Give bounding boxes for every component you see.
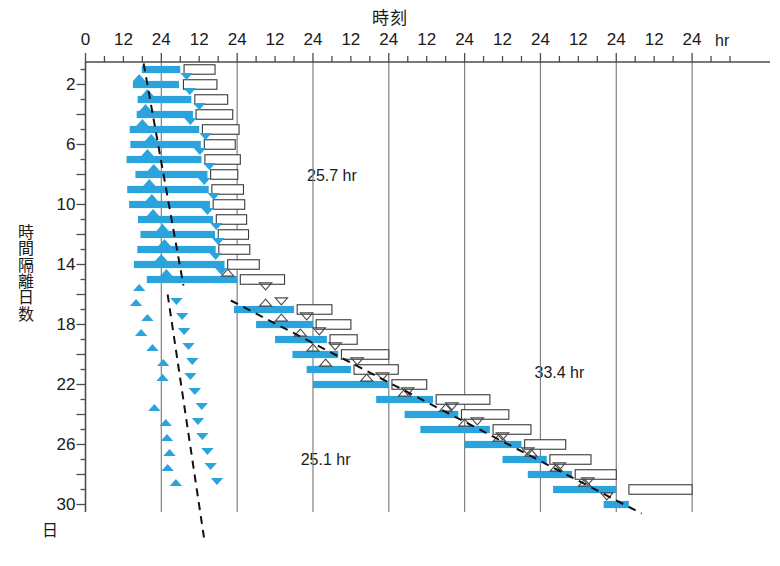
triangle-down-marker <box>209 253 221 260</box>
triangle-down-marker <box>186 358 198 365</box>
triangle-down-marker <box>212 238 224 245</box>
triangle-up-marker <box>319 359 331 366</box>
wake-period-rect <box>184 65 215 75</box>
triangle-up-marker <box>130 299 142 306</box>
sleep-period-bar <box>234 306 294 313</box>
triangle-up-marker <box>161 434 173 441</box>
triangle-up-marker <box>143 179 155 186</box>
sleep-period-bar <box>256 321 313 328</box>
triangle-up-marker <box>139 104 151 111</box>
triangle-down-marker <box>184 118 196 125</box>
actogram-figure: 時刻 012241224122412241224122412241224 hr … <box>0 0 780 566</box>
wake-period-rect <box>204 140 235 150</box>
wake-period-rect <box>212 185 244 195</box>
sleep-period-bar <box>133 81 179 88</box>
sleep-period-bar <box>138 216 213 223</box>
triangle-down-marker <box>180 73 192 80</box>
triangle-down-marker <box>184 373 196 380</box>
triangle-up-marker <box>133 284 145 291</box>
wake-period-rect <box>213 200 245 210</box>
wake-period-rect <box>461 410 508 420</box>
sleep-period-bar <box>503 456 547 463</box>
triangle-down-marker <box>203 163 215 170</box>
triangle-up-marker <box>148 164 160 171</box>
triangle-down-marker <box>194 148 206 155</box>
triangle-down-marker <box>201 448 213 455</box>
wake-period-rect <box>218 230 248 240</box>
triangle-down-marker <box>275 298 287 305</box>
triangle-up-marker <box>360 374 372 381</box>
triangle-up-marker <box>259 299 271 306</box>
triangle-up-marker <box>133 74 145 81</box>
sleep-period-bar <box>127 156 202 163</box>
sleep-period-bar <box>313 381 389 388</box>
triangle-up-marker <box>147 209 159 216</box>
triangle-up-marker <box>141 314 153 321</box>
wake-period-rect <box>629 485 692 495</box>
gridlines <box>161 62 692 512</box>
sleep-period-bar <box>405 411 459 418</box>
wake-period-rect <box>196 110 233 120</box>
sleep-period-bar <box>130 126 200 133</box>
sleep-period-bar <box>135 171 207 178</box>
sleep-period-bar <box>275 336 327 343</box>
triangle-down-marker <box>201 208 213 215</box>
wake-period-rect <box>341 350 388 360</box>
triangle-down-marker <box>193 103 205 110</box>
triangle-down-marker <box>182 343 194 350</box>
triangle-up-marker <box>136 119 148 126</box>
wake-period-rect <box>202 125 239 135</box>
sleep-period-bar <box>130 141 200 148</box>
plot-canvas <box>0 0 780 566</box>
sleep-period-bar <box>376 396 433 403</box>
triangle-down-marker <box>184 88 196 95</box>
triangle-down-marker <box>210 223 222 230</box>
triangle-down-marker <box>178 328 190 335</box>
triangle-up-marker <box>157 359 169 366</box>
triangle-up-marker <box>135 329 147 336</box>
sleep-period-bar <box>137 111 193 118</box>
triangle-down-marker <box>208 193 220 200</box>
sleep-period-bar <box>465 441 522 448</box>
triangle-down-marker <box>196 433 208 440</box>
triangle-up-marker <box>141 149 153 156</box>
triangle-up-marker <box>155 254 167 261</box>
triangle-up-marker <box>275 314 287 321</box>
wake-period-rect <box>216 215 246 225</box>
triangle-up-marker <box>141 89 153 96</box>
triangle-down-marker <box>192 418 204 425</box>
sleep-period-bar <box>604 501 629 508</box>
sleep-period-bar <box>138 96 192 103</box>
wake-period-rect <box>436 395 490 405</box>
wake-period-rect <box>211 170 238 180</box>
triangle-down-marker <box>176 313 188 320</box>
sleep-period-bar <box>140 231 215 238</box>
triangle-up-marker <box>161 464 173 471</box>
triangle-up-marker <box>156 224 168 231</box>
sleep-period-bar <box>307 366 351 373</box>
triangle-down-marker <box>196 403 208 410</box>
wake-period-rect <box>228 260 260 270</box>
triangle-up-marker <box>163 449 175 456</box>
sleep-period-bar <box>147 276 237 283</box>
trend-dashed-line <box>231 301 642 514</box>
sleep-period-bar <box>553 486 616 493</box>
triangle-down-marker <box>170 298 182 305</box>
sleep-period-bar <box>528 471 572 478</box>
triangle-down-marker <box>198 178 210 185</box>
sleep-period-bar <box>127 186 209 193</box>
wake-period-rect <box>195 95 228 105</box>
triangle-up-marker <box>156 374 168 381</box>
triangle-down-marker <box>189 388 201 395</box>
wake-period-rect <box>219 245 250 255</box>
triangle-up-marker <box>170 479 182 486</box>
triangle-up-marker <box>146 344 158 351</box>
triangle-up-marker <box>160 269 172 276</box>
wake-period-rect <box>205 155 240 165</box>
triangle-up-marker <box>146 194 158 201</box>
triangle-up-marker <box>158 239 170 246</box>
triangle-down-marker <box>204 463 216 470</box>
triangle-down-marker <box>211 478 223 485</box>
triangle-up-marker <box>148 404 160 411</box>
triangle-down-marker <box>199 133 211 140</box>
